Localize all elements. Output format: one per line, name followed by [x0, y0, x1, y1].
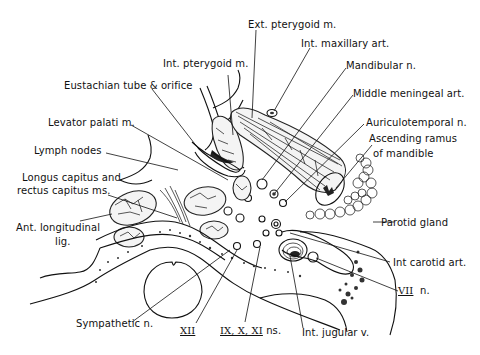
label-middle-meningeal-artery: Middle meningeal art. — [353, 88, 465, 99]
label-ascending-ramus-line1: Ascending ramus — [369, 133, 457, 144]
label-ext-pterygoid: Ext. pterygoid m. — [248, 19, 336, 30]
label-int-maxillary-artery: Int. maxillary art. — [301, 38, 389, 49]
label-vii-nerve: VII n. — [398, 285, 430, 296]
label-eustachian-tube: Eustachian tube & orifice — [64, 80, 193, 91]
label-int-carotid-artery: Int carotid art. — [393, 257, 466, 268]
label-lymph-nodes: Lymph nodes — [34, 145, 101, 156]
label-xii-nerve: XII — [180, 325, 195, 336]
vii-suffix: n. — [420, 285, 430, 296]
xii-numeral: XII — [180, 325, 195, 336]
label-levator-palati: Levator palati m. — [48, 117, 135, 128]
vii-numeral: VII — [398, 285, 413, 296]
label-ascending-ramus-line2: of mandible — [373, 148, 434, 159]
spinal-cord — [144, 262, 202, 318]
label-ant-longitudinal-line2: lig. — [55, 236, 70, 247]
label-auriculotemporal-nerve: Auriculotemporal n. — [366, 117, 467, 128]
ix-x-xi-numerals: IX, X, XI — [220, 325, 263, 336]
label-int-pterygoid: Int. pterygoid m. — [163, 58, 248, 69]
label-longus-capitus-line1: Longus capitus and — [22, 172, 121, 183]
label-int-jugular-vein: Int. jugular v. — [302, 327, 369, 338]
label-parotid-gland: Parotid gland — [381, 217, 448, 228]
vii-nerve-dots — [339, 251, 365, 306]
label-longus-capitus-line2: rectus capitus ms. — [17, 185, 111, 196]
ix-x-xi-suffix: ns. — [266, 325, 281, 336]
label-ix-x-xi-nerves: IX, X, XI ns. — [220, 325, 281, 336]
label-mandibular-nerve: Mandibular n. — [346, 60, 416, 71]
label-sympathetic-nerve: Sympathetic n. — [76, 318, 153, 329]
label-ant-longitudinal-line1: Ant. longitudinal — [16, 222, 100, 233]
